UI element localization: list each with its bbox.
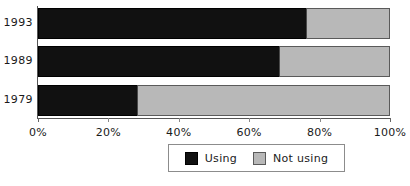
x-tick-label-60: 60% (226, 126, 272, 139)
bar-segment-using (38, 8, 306, 39)
x-tick-label-80: 80% (297, 126, 343, 139)
x-tick-label-0: 0% (15, 126, 61, 139)
bar-segment-not-using (306, 8, 390, 39)
black-swatch-icon (185, 152, 198, 165)
legend-entry-using: Using (185, 152, 237, 165)
x-tick-inner-80 (320, 118, 321, 122)
bar-segment-not-using (279, 46, 390, 77)
bar-segment-using (38, 46, 279, 77)
x-tick-0 (38, 118, 39, 122)
x-tick-inner-20 (108, 118, 109, 122)
plot-area: 0%20%40%60%80%100% (38, 6, 390, 118)
stacked-bar-chart: 1993 1989 1979 0%20%40%60%80%100% Using … (0, 0, 410, 186)
x-tick-inner-60 (249, 118, 250, 122)
y-axis-label-1979: 1979 (0, 93, 33, 106)
bar-row (38, 85, 390, 116)
chart-legend: Using Not using (168, 144, 345, 172)
x-axis-line (37, 118, 391, 119)
x-tick-label-40: 40% (156, 126, 202, 139)
legend-label-using: Using (205, 152, 237, 165)
x-tick-100 (390, 118, 391, 122)
gray-swatch-icon (253, 152, 266, 165)
y-axis-label-1993: 1993 (0, 16, 33, 29)
legend-entry-not-using: Not using (253, 152, 328, 165)
bar-segment-using (38, 85, 137, 116)
bar-segment-not-using (137, 85, 390, 116)
x-tick-label-20: 20% (85, 126, 131, 139)
x-tick-inner-40 (179, 118, 180, 122)
bar-row (38, 46, 390, 77)
legend-label-not-using: Not using (273, 152, 328, 165)
y-axis-label-1989: 1989 (0, 54, 33, 67)
bar-row (38, 8, 390, 39)
x-tick-label-100: 100% (367, 126, 410, 139)
